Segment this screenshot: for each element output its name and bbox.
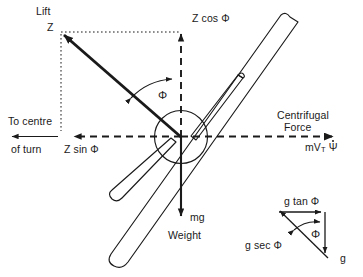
tailplane-tip-left <box>238 73 244 78</box>
inset-phi-label: Φ <box>311 228 320 241</box>
to-centre-label-line2: of turn <box>11 144 41 156</box>
z-sin-phi-label: Z sin Φ <box>64 144 99 156</box>
force-diagram-figure: Lift Z Z cos Φ To centre of turn Z sin Φ… <box>0 0 363 277</box>
z-cos-phi-label: Z cos Φ <box>192 13 230 25</box>
centrifugal-symbol-sub: T <box>321 145 326 154</box>
inset-vector-triangle <box>279 211 328 258</box>
centrifugal-label-line1: Centrifugal <box>277 110 329 122</box>
bank-angle-label: Φ <box>158 89 167 102</box>
weight-label: Weight <box>168 230 201 242</box>
centrifugal-symbol-m: mV <box>305 141 321 153</box>
g-sec-phi-vector <box>280 211 328 258</box>
lift-symbol-label: Z <box>47 22 54 34</box>
g-tan-phi-label: g tan Φ <box>284 196 319 208</box>
lift-vector-line <box>64 35 181 137</box>
lift-vector <box>64 35 181 137</box>
main-wing-outline <box>109 13 298 267</box>
centrifugal-symbol-psi: Ψ <box>329 142 338 154</box>
g-label: g <box>340 253 346 265</box>
stabiliser-lower-outline <box>110 138 177 201</box>
g-sec-phi-label: g sec Φ <box>245 240 282 252</box>
to-centre-label-line1: To centre <box>8 116 52 128</box>
centrifugal-symbol: mVTΨ <box>305 142 338 155</box>
centrifugal-label-line2: Force <box>284 122 311 134</box>
lift-label: Lift <box>36 6 50 18</box>
aircraft-silhouette <box>109 13 298 267</box>
mg-label: mg <box>190 212 205 224</box>
